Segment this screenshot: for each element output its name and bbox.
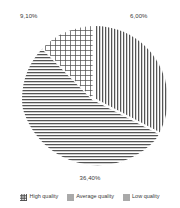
horizontal-lines-swatch-icon [123, 194, 130, 201]
crosshatch-swatch-icon [20, 194, 27, 201]
legend-label-average-quality: Average quality [76, 194, 114, 200]
vertical-lines-swatch-icon [67, 194, 74, 201]
pie-label-high-quality: 9,10% [20, 13, 38, 19]
legend-item-average-quality[interactable]: Average quality [67, 194, 114, 201]
pie-chart-area [0, 0, 180, 186]
legend-item-low-quality[interactable]: Low quality [123, 194, 160, 201]
legend-label-high-quality: High quality [29, 194, 58, 200]
chart-legend: High quality Average quality Low quality [0, 190, 180, 204]
pie-label-low-quality: 36,40% [70, 175, 110, 181]
pie-chart-figure: 9,10% 6,00% 36,40% High quality Average … [0, 0, 180, 208]
legend-item-high-quality[interactable]: High quality [20, 194, 58, 201]
legend-label-low-quality: Low quality [132, 194, 160, 200]
pie-chart-svg [0, 0, 180, 186]
pie-label-average-quality: 6,00% [130, 13, 148, 19]
